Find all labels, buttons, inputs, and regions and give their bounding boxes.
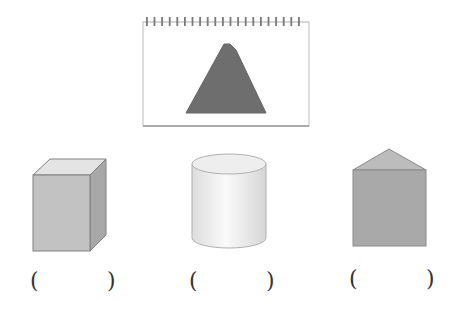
open-paren: ( [30,270,39,292]
cylinder-solid [190,152,270,252]
open-paren: ( [189,270,198,292]
triangular-prism-solid [350,146,430,248]
close-paren: ) [426,268,435,290]
open-paren: ( [349,268,358,290]
close-paren: ) [107,270,116,292]
close-paren: ) [266,270,275,292]
cuboid-solid [30,155,110,255]
notebook-card [140,14,312,130]
notebook-icon [140,14,312,130]
